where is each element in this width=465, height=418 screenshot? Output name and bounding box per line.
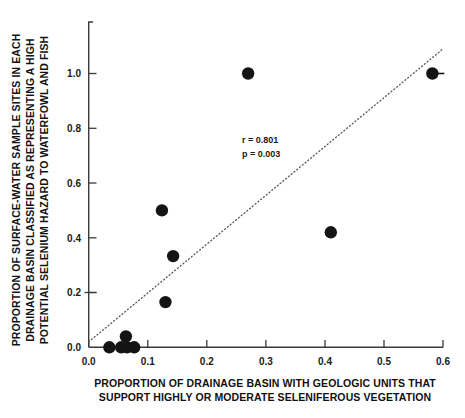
x-tick-label: 0.0 <box>82 356 96 367</box>
scatter-plot-figure: 1.0 0.8 0.6 0.4 0.2 0.0 0.0 0.1 0.2 0.3 … <box>0 0 465 418</box>
p-value-label: p = 0.003 <box>242 149 280 159</box>
x-axis-title-line-1: PROPORTION OF DRAINAGE BASIN WITH GEOLOG… <box>94 377 436 389</box>
y-axis-title-line-3: POTENTIAL SELENIUM HAZARD TO WATERFOWL A… <box>38 36 50 345</box>
y-tick-label: 0.0 <box>67 342 81 353</box>
r-value-label: r = 0.801 <box>242 135 278 145</box>
y-tick-label: 0.2 <box>67 287 81 298</box>
y-axis-title: PROPORTION OF SURFACE-WATER SAMPLE SITES… <box>10 34 50 347</box>
data-point <box>103 341 115 353</box>
y-axis-title-line-1: PROPORTION OF SURFACE-WATER SAMPLE SITES… <box>10 34 22 347</box>
data-point <box>167 250 179 262</box>
x-tick-label: 0.1 <box>141 356 155 367</box>
y-tick-label: 0.4 <box>67 233 81 244</box>
y-tick-label: 0.8 <box>67 123 81 134</box>
chart-canvas: 1.0 0.8 0.6 0.4 0.2 0.0 0.0 0.1 0.2 0.3 … <box>0 0 465 418</box>
data-point <box>242 67 254 79</box>
x-tick-label: 0.3 <box>259 356 273 367</box>
data-point <box>120 330 132 342</box>
x-axis-title-line-2: SUPPORT HIGHLY OR MODERATE SELENIFEROUS … <box>99 391 431 403</box>
data-point <box>156 204 168 216</box>
data-point <box>128 341 140 353</box>
x-tick-label: 0.2 <box>200 356 214 367</box>
x-tick-label: 0.4 <box>318 356 332 367</box>
chart-background <box>0 0 465 418</box>
y-tick-label: 0.6 <box>67 178 81 189</box>
y-axis-title-line-2: DRAINAGE BASIN CLASSIFIED AS REPRESENTIN… <box>24 38 36 342</box>
data-point <box>159 296 171 308</box>
x-tick-label: 0.5 <box>377 356 391 367</box>
data-point <box>325 226 337 238</box>
y-tick-label: 1.0 <box>67 68 81 79</box>
x-tick-label: 0.6 <box>436 356 450 367</box>
